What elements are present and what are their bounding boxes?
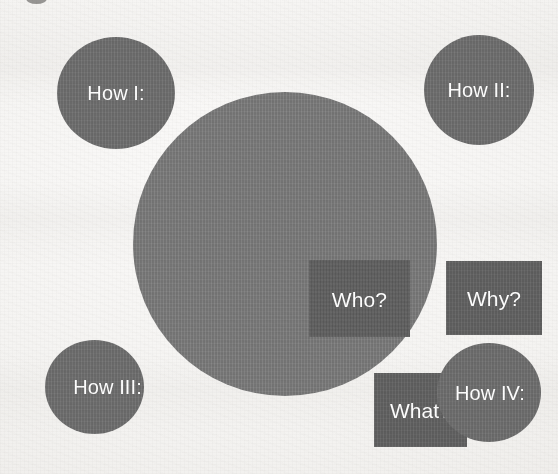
center-circle[interactable]: Who? Why? What?	[133, 92, 437, 396]
corner-circle-how-1[interactable]: How I:	[57, 37, 175, 149]
diagram-canvas: Who? Why? What? How I: How II: How III: …	[0, 0, 558, 474]
corner-circle-how-4-label: How IV:	[427, 383, 553, 403]
corner-circle-how-4[interactable]: How IV:	[437, 343, 541, 442]
corner-circle-how-2[interactable]: How II:	[424, 35, 534, 145]
corner-circle-how-2-label: How II:	[412, 80, 546, 100]
inner-square-why[interactable]: Why?	[446, 261, 542, 335]
inner-square-who-label: Who?	[309, 288, 410, 309]
corner-circle-how-3-label: How III:	[37, 377, 178, 397]
corner-circle-how-3[interactable]: How III:	[45, 340, 144, 434]
inner-square-who[interactable]: Who?	[309, 260, 410, 337]
inner-square-why-label: Why?	[446, 288, 542, 309]
corner-circle-how-1-label: How I:	[47, 83, 185, 103]
